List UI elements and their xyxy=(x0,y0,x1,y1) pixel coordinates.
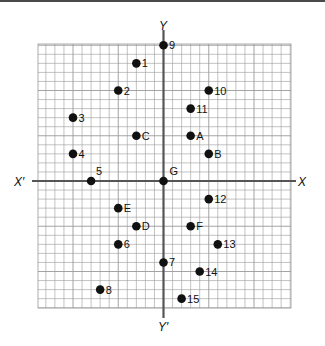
point-marker-icon xyxy=(214,240,223,249)
point-marker-icon xyxy=(69,113,78,122)
point-marker-icon xyxy=(114,240,123,249)
point-marker-icon xyxy=(186,104,195,113)
point-label: 6 xyxy=(124,238,130,250)
point-label: 5 xyxy=(96,165,102,177)
point-marker-icon xyxy=(114,204,123,213)
point-label: 1 xyxy=(142,57,148,69)
point-marker-icon xyxy=(204,150,213,159)
point-14: 14 xyxy=(195,266,217,278)
point-11: 11 xyxy=(186,103,207,115)
point-10: 10 xyxy=(204,85,226,97)
point-marker-icon xyxy=(69,150,78,159)
point-label: 7 xyxy=(169,256,175,268)
point-label: 3 xyxy=(79,112,85,124)
point-E: E xyxy=(114,202,131,214)
y-axis-positive-label: Y xyxy=(159,19,168,33)
point-label: C xyxy=(142,130,150,142)
point-label: A xyxy=(196,130,204,142)
point-C: C xyxy=(132,130,150,142)
point-F: F xyxy=(186,220,203,232)
point-marker-icon xyxy=(132,131,141,140)
point-label: 12 xyxy=(214,193,226,205)
point-marker-icon xyxy=(186,131,195,140)
point-marker-icon xyxy=(132,59,141,68)
point-3: 3 xyxy=(69,112,85,124)
point-label: B xyxy=(214,148,221,160)
point-marker-icon xyxy=(195,267,204,276)
point-G: G xyxy=(159,165,178,185)
point-A: A xyxy=(186,130,204,142)
point-1: 1 xyxy=(132,57,148,69)
point-label: 4 xyxy=(79,148,85,160)
point-marker-icon xyxy=(96,285,105,294)
point-marker-icon xyxy=(204,86,213,95)
point-label: 13 xyxy=(223,238,235,250)
point-15: 15 xyxy=(177,293,199,305)
point-6: 6 xyxy=(114,238,130,250)
point-marker-icon xyxy=(159,177,168,186)
point-marker-icon xyxy=(132,222,141,231)
x-axis-negative-label: X′ xyxy=(13,175,25,189)
x-axis-positive-label: X xyxy=(297,175,307,189)
point-marker-icon xyxy=(159,258,168,267)
point-4: 4 xyxy=(69,148,85,160)
point-2: 2 xyxy=(114,85,130,97)
point-marker-icon xyxy=(87,177,96,186)
point-marker-icon xyxy=(177,294,186,303)
point-label: 10 xyxy=(214,85,226,97)
point-label: G xyxy=(170,165,179,177)
point-7: 7 xyxy=(159,256,175,268)
point-D: D xyxy=(132,220,150,232)
point-label: D xyxy=(142,220,150,232)
coordinate-grid-diagram: X X′ Y Y′ 91210113CA4B5G12EDF613714815 xyxy=(0,0,325,346)
point-12: 12 xyxy=(204,193,226,205)
point-9: 9 xyxy=(159,39,175,51)
point-label: E xyxy=(124,202,131,214)
point-13: 13 xyxy=(214,238,236,250)
point-B: B xyxy=(204,148,221,160)
point-marker-icon xyxy=(159,41,168,50)
point-label: 8 xyxy=(106,284,112,296)
point-marker-icon xyxy=(114,86,123,95)
point-label: 2 xyxy=(124,85,130,97)
point-label: 9 xyxy=(169,39,175,51)
point-marker-icon xyxy=(186,222,195,231)
point-label: 15 xyxy=(187,293,199,305)
point-8: 8 xyxy=(96,284,112,296)
point-marker-icon xyxy=(204,195,213,204)
point-label: F xyxy=(196,220,203,232)
point-label: 14 xyxy=(205,266,217,278)
y-axis-negative-label: Y′ xyxy=(158,320,169,334)
point-label: 11 xyxy=(196,103,207,115)
